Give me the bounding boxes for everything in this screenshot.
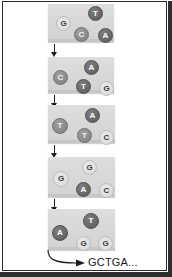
- chamber-panel-2: A C T G: [48, 57, 114, 93]
- nucleotide-c: C: [74, 27, 89, 42]
- chamber-panel-3: A T T C: [48, 105, 115, 143]
- nucleotide-c: C: [53, 70, 68, 85]
- nucleotide-a: A: [98, 28, 113, 43]
- step-arrow-1: [50, 44, 59, 57]
- nucleotide-g: G: [99, 81, 114, 96]
- nucleotide-t: T: [88, 6, 103, 21]
- chamber-panel-4: G G A C: [48, 157, 115, 197]
- nucleotide-c: C: [99, 183, 114, 198]
- chamber-panel-1: T G C A: [48, 4, 114, 42]
- nucleotide-a: A: [85, 108, 100, 123]
- nucleotide-c: C: [99, 130, 114, 145]
- nucleotide-t: T: [77, 128, 92, 143]
- chamber-panel-5: T A G G: [48, 209, 115, 250]
- nucleotide-g: G: [56, 16, 71, 31]
- frame-bottom-shadow: [0, 272, 172, 277]
- sequencing-figure: T G C A A C T G A T T C G G A C: [0, 0, 172, 277]
- output-sequence-label: GCTGA...: [88, 256, 138, 268]
- nucleotide-g: G: [53, 171, 69, 187]
- output-curved-arrow: [46, 249, 92, 269]
- nucleotide-t: T: [76, 79, 91, 94]
- nucleotide-g: G: [98, 236, 113, 251]
- nucleotide-g: G: [82, 160, 97, 175]
- nucleotide-t: T: [83, 213, 99, 229]
- nucleotide-a: A: [52, 225, 68, 241]
- nucleotide-t: T: [52, 118, 68, 134]
- nucleotide-a: A: [84, 60, 99, 75]
- frame-left-edge: [0, 0, 2, 272]
- frame-right-shadow: [168, 1, 172, 277]
- nucleotide-a: A: [76, 182, 91, 197]
